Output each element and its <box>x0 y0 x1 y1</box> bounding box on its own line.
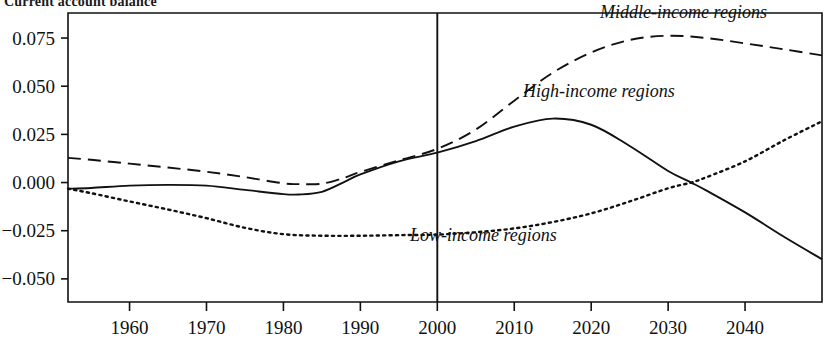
y-axis-tick-label: 0.075 <box>12 28 55 49</box>
x-axis-tick-label: 1960 <box>111 317 149 338</box>
series-label-middle-income-regions: Middle-income regions <box>599 2 767 22</box>
series-line-middle-income-regions <box>68 36 822 185</box>
chart-plot-area: 0.0750.0500.0250.000−0.025−0.05019601970… <box>0 0 826 344</box>
plot-frame <box>68 13 822 302</box>
x-axis-tick-label: 2040 <box>726 317 764 338</box>
series-label-high-income-regions: High-income regions <box>522 81 675 101</box>
series-line-low-income-regions <box>68 121 822 236</box>
y-axis-tick-label: 0.050 <box>12 76 55 97</box>
y-axis-tick-label: −0.025 <box>2 220 55 241</box>
axis-layer <box>61 13 822 311</box>
y-axis-tick-label: 0.000 <box>12 172 55 193</box>
x-axis-tick-label: 1990 <box>341 317 379 338</box>
x-axis-tick-label: 2020 <box>572 317 610 338</box>
y-axis-tick-label: 0.025 <box>12 124 55 145</box>
x-axis-tick-label: 2030 <box>649 317 687 338</box>
series-label-low-income-regions: Low-income regions <box>409 225 557 245</box>
x-axis-tick-label: 1980 <box>264 317 302 338</box>
y-axis-tick-label: −0.050 <box>2 268 55 289</box>
x-axis-tick-label: 2010 <box>495 317 533 338</box>
chart-figure: Current account balance 0.0750.0500.0250… <box>0 0 826 344</box>
x-axis-tick-label: 2000 <box>418 317 456 338</box>
tick-label-layer: 0.0750.0500.0250.000−0.025−0.05019601970… <box>2 28 765 338</box>
x-axis-tick-label: 1970 <box>187 317 225 338</box>
